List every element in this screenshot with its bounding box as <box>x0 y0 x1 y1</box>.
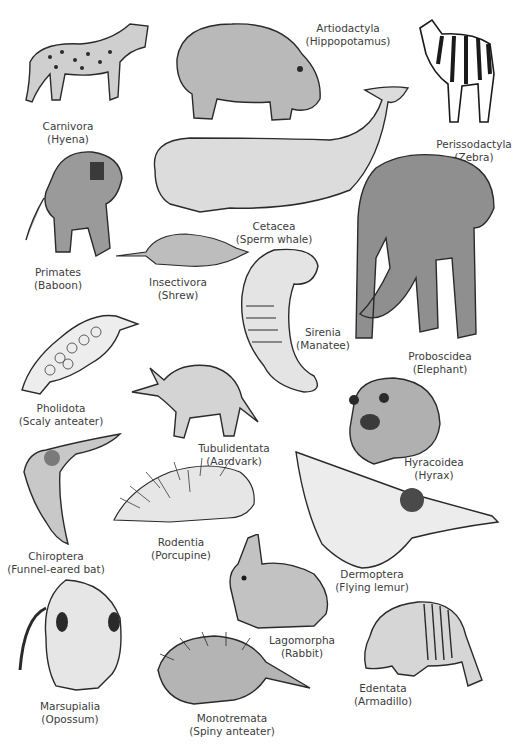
common-name: (Manatee) <box>296 339 350 352</box>
order-name: Chiroptera <box>7 550 104 563</box>
order-name: Primates <box>34 266 82 279</box>
spiny-anteater-icon <box>154 630 312 708</box>
order-name: Marsupialia <box>40 700 100 713</box>
order-name: Sirenia <box>296 326 350 339</box>
common-name: (Baboon) <box>34 279 82 292</box>
porcupine-icon <box>110 458 258 528</box>
opossum-icon <box>16 578 124 694</box>
common-name: (Hippopotamus) <box>306 35 391 48</box>
aardvark-icon <box>130 362 260 442</box>
order-name: Rodentia <box>151 536 211 549</box>
label-rodentia: Rodentia (Porcupine) <box>151 536 211 562</box>
common-name: (Spiny anteater) <box>189 725 275 738</box>
common-name: (Armadillo) <box>354 695 412 708</box>
label-edentata: Edentata (Armadillo) <box>354 682 412 708</box>
baboon-icon <box>22 148 126 260</box>
common-name: (Scaly anteater) <box>19 415 104 428</box>
order-name: Tubulidentata <box>198 442 270 455</box>
elephant-icon <box>346 148 496 344</box>
label-insectivora: Insectivora (Shrew) <box>149 276 207 302</box>
label-artiodactyla: Artiodactyla (Hippopotamus) <box>306 22 391 48</box>
zebra-icon <box>412 14 500 128</box>
order-name: Monotremata <box>189 712 275 725</box>
common-name: (Porcupine) <box>151 549 211 562</box>
order-name: Carnivora <box>43 120 94 133</box>
shrew-icon <box>116 228 250 272</box>
bat-icon <box>16 432 122 548</box>
label-carnivora: Carnivora (Hyena) <box>43 120 94 146</box>
armadillo-icon <box>358 596 488 690</box>
order-name: Edentata <box>354 682 412 695</box>
label-monotremata: Monotremata (Spiny anteater) <box>189 712 275 738</box>
order-name: Insectivora <box>149 276 207 289</box>
mammal-orders-figure: Carnivora (Hyena) Artiodactyla (Hippopot… <box>0 0 517 745</box>
label-dermoptera: Dermoptera (Flying lemur) <box>335 568 409 594</box>
common-name: (Opossum) <box>40 713 100 726</box>
order-name: Dermoptera <box>335 568 409 581</box>
hyena-icon <box>20 12 150 112</box>
rabbit-icon <box>218 534 332 630</box>
label-chiroptera: Chiroptera (Funnel-eared bat) <box>7 550 104 576</box>
common-name: (Funnel-eared bat) <box>7 563 104 576</box>
order-name: Artiodactyla <box>306 22 391 35</box>
label-pholidota: Pholidota (Scaly anteater) <box>19 402 104 428</box>
common-name: (Flying lemur) <box>335 581 409 594</box>
order-name: Pholidota <box>19 402 104 415</box>
common-name: (Hyena) <box>43 133 94 146</box>
label-sirenia: Sirenia (Manatee) <box>296 326 350 352</box>
label-primates: Primates (Baboon) <box>34 266 82 292</box>
label-proboscidea: Proboscidea (Elephant) <box>408 350 471 376</box>
label-marsupialia: Marsupialia (Opossum) <box>40 700 100 726</box>
common-name: (Shrew) <box>149 289 207 302</box>
order-name: Proboscidea <box>408 350 471 363</box>
pangolin-icon <box>20 302 140 396</box>
